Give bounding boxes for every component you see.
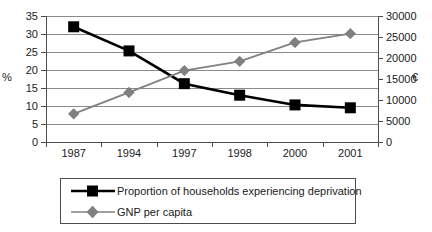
y-tick-label-left: 15 [8,83,38,94]
x-tick-label: 2001 [323,147,377,159]
gridline [47,16,378,17]
y-tick-label-right: 15000 [386,74,428,85]
gridline [47,124,378,125]
y-tick-label-right: 25000 [386,32,428,43]
y-tick-label-right: 20000 [386,53,428,64]
gridline [47,52,378,53]
y-tick-left [41,16,46,17]
y-tick-label-left: 20 [8,65,38,76]
y-tick-left [41,70,46,71]
y-tick-label-right: 5000 [386,116,428,127]
legend-item-gnp: GNP per capita [61,202,355,222]
y-tick-right [378,121,383,122]
x-tick-label: 1997 [157,147,211,159]
y-tick-right [378,100,383,101]
y-tick-label-left: 35 [8,11,38,22]
gridline [47,106,378,107]
y-tick-left [41,34,46,35]
x-tick-label: 1994 [102,147,156,159]
y-tick-label-right: 30000 [386,11,428,22]
legend-key-diamond-icon [69,203,117,221]
y-tick-label-left: 30 [8,29,38,40]
y-tick-left [41,88,46,89]
y-tick-left [41,106,46,107]
chart-legend: Proportion of households experiencing de… [60,178,356,224]
x-tick [378,142,379,147]
y-tick-right [378,37,383,38]
plot-area [46,16,378,142]
y-tick-label-right: 0 [386,137,428,148]
x-tick-label: 2000 [268,147,322,159]
x-tick-label: 1987 [47,147,101,159]
y-tick-label-left: 10 [8,101,38,112]
legend-item-deprivation: Proportion of households experiencing de… [61,181,355,201]
chart-container: 0510152025303505000100001500020000250003… [0,0,432,232]
legend-key-square-icon [69,182,117,200]
y-tick-label-left: 0 [8,137,38,148]
gridline [47,70,378,71]
right-axis-title: € [412,72,418,83]
legend-label-gnp: GNP per capita [117,206,192,218]
y-tick-label-left: 25 [8,47,38,58]
y-tick-left [41,124,46,125]
y-tick-right [378,58,383,59]
y-tick-right [378,16,383,17]
gridline [47,88,378,89]
y-tick-left [41,52,46,53]
x-tick-label: 1998 [213,147,267,159]
legend-label-deprivation: Proportion of households experiencing de… [117,185,362,197]
y-tick-right [378,79,383,80]
y-tick-label-left: 5 [8,119,38,130]
gridline [47,34,378,35]
left-axis-title: % [2,72,12,83]
y-tick-label-right: 10000 [386,95,428,106]
